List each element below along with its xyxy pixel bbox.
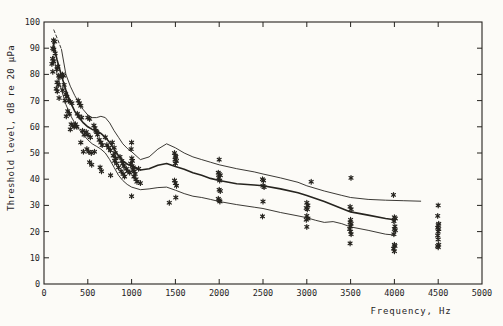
- threshold-vs-frequency-chart: 0500100015002000250030003500400045005000…: [0, 0, 503, 326]
- x-tick-label: 500: [80, 288, 95, 298]
- y-tick-label: 100: [25, 17, 40, 27]
- y-tick-label: 20: [30, 227, 40, 237]
- x-tick-label: 0: [41, 288, 46, 298]
- y-tick-label: 40: [30, 174, 40, 184]
- x-tick-label: 2500: [253, 288, 273, 298]
- y-tick-label: 10: [30, 253, 40, 263]
- x-tick-label: 1000: [121, 288, 141, 298]
- x-axis-title: Frequency, Hz: [364, 306, 458, 316]
- mean-threshold-curve: [53, 43, 394, 220]
- y-tick-label: 50: [30, 148, 40, 158]
- x-tick-label: 4500: [428, 288, 448, 298]
- lower-bound-curve: [54, 56, 395, 235]
- y-tick-label: 80: [30, 69, 40, 79]
- upper-bound-curve: [62, 50, 421, 202]
- y-axis-title: Threshold level, dB re 20 µPa: [6, 32, 16, 224]
- x-tick-label: 2000: [209, 288, 229, 298]
- plot-border: [44, 22, 482, 284]
- y-tick-label: 90: [30, 43, 40, 53]
- data-points: [50, 38, 441, 254]
- x-tick-label: 3000: [297, 288, 317, 298]
- y-tick-label: 60: [30, 122, 40, 132]
- y-tick-label: 70: [30, 96, 40, 106]
- scanned-audiogram-figure: 0500100015002000250030003500400045005000…: [0, 0, 503, 326]
- y-tick-label: 0: [35, 279, 40, 289]
- x-tick-label: 4000: [384, 288, 404, 298]
- x-tick-label: 1500: [165, 288, 185, 298]
- y-tick-label: 30: [30, 200, 40, 210]
- x-tick-label: 5000: [472, 288, 492, 298]
- x-tick-label: 3500: [340, 288, 360, 298]
